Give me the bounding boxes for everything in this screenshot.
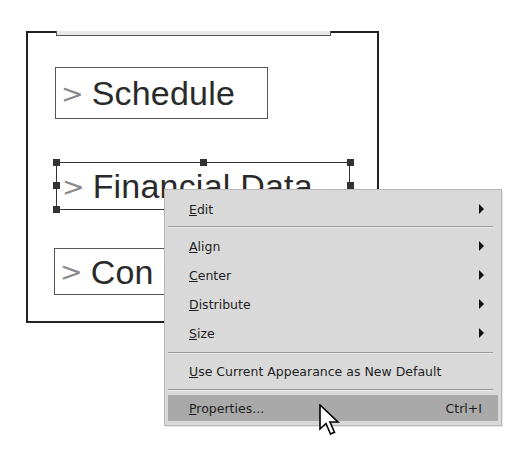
- mnemonic: U: [189, 364, 198, 379]
- menu-item-center[interactable]: Center: [168, 262, 498, 288]
- mnemonic: A: [189, 239, 198, 254]
- chevron-right-icon: >: [62, 173, 85, 200]
- menu-item-align[interactable]: Align: [168, 233, 498, 259]
- submenu-arrow-icon: [479, 299, 484, 309]
- resize-handle-left[interactable]: [53, 182, 60, 189]
- top-field-edge[interactable]: [56, 31, 331, 36]
- menu-separator: [168, 389, 493, 391]
- menu-separator: [168, 226, 493, 228]
- submenu-arrow-icon: [479, 241, 484, 251]
- menu-item-label: ize: [197, 326, 215, 341]
- resize-handle-bottom-left[interactable]: [53, 206, 60, 213]
- menu-item-label: roperties...: [196, 401, 264, 416]
- resize-handle-top-left[interactable]: [53, 159, 60, 166]
- menu-item-edit[interactable]: Edit: [168, 196, 498, 222]
- submenu-arrow-icon: [479, 204, 484, 214]
- context-menu: Edit Align Center Distribute Size Use Cu…: [164, 189, 502, 426]
- menu-item-distribute[interactable]: Distribute: [168, 291, 498, 317]
- submenu-arrow-icon: [479, 328, 484, 338]
- chevron-right-icon: >: [61, 80, 84, 107]
- resize-handle-top-right[interactable]: [347, 159, 354, 166]
- menu-item-label: istribute: [199, 297, 251, 312]
- menu-item-label: lign: [198, 239, 221, 254]
- mnemonic: S: [189, 326, 197, 341]
- field-label: Con: [91, 255, 154, 289]
- resize-handle-right[interactable]: [347, 182, 354, 189]
- mnemonic: D: [189, 297, 199, 312]
- menu-separator: [168, 352, 493, 354]
- mnemonic: C: [189, 268, 198, 283]
- mnemonic: E: [189, 202, 197, 217]
- menu-item-label: se Current Appearance as New Default: [198, 364, 441, 379]
- resize-handle-top[interactable]: [200, 159, 207, 166]
- schedule-field[interactable]: > Schedule: [55, 67, 268, 119]
- mouse-pointer-icon: [318, 404, 342, 438]
- menu-item-size[interactable]: Size: [168, 320, 498, 346]
- menu-item-use-current-appearance[interactable]: Use Current Appearance as New Default: [168, 358, 498, 384]
- field-label: Schedule: [92, 76, 235, 110]
- submenu-arrow-icon: [479, 270, 484, 280]
- shortcut-label: Ctrl+I: [446, 401, 482, 416]
- menu-item-label: enter: [198, 268, 231, 283]
- chevron-right-icon: >: [60, 258, 83, 285]
- menu-item-label: dit: [197, 202, 213, 217]
